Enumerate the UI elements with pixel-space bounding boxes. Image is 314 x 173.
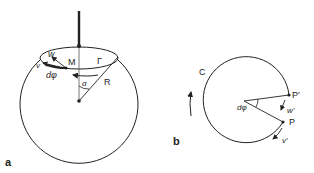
- w-prime-vector: [281, 100, 285, 110]
- figure-b-circle: C P' P w' v' dφ b: [173, 57, 300, 147]
- circle-C: [203, 57, 289, 143]
- top-dot: [77, 44, 81, 48]
- diagram-canvas: w v M dφ Γ α R a C P' P w' v' dφ b: [0, 0, 314, 173]
- radius-to-P-prime: [244, 95, 289, 101]
- panel-label-a: a: [5, 156, 12, 168]
- label-w: w: [48, 49, 55, 59]
- dphi-angle-arc: [256, 99, 258, 107]
- label-v: v: [36, 61, 41, 70]
- rotation-arrow: [73, 75, 98, 76]
- point-P-prime: [287, 93, 290, 96]
- label-P-prime: P': [292, 90, 300, 100]
- label-gamma: Γ: [97, 56, 102, 66]
- label-R: R: [104, 77, 111, 87]
- figure-a-sphere: w v M dφ Γ α R a: [0, 11, 160, 173]
- panel-label-b: b: [173, 135, 180, 147]
- label-dphi-b: dφ: [237, 103, 247, 112]
- label-v-prime: v': [282, 136, 288, 145]
- radius-to-P: [244, 101, 283, 122]
- label-dphi: dφ: [46, 70, 57, 80]
- point-P: [281, 120, 284, 123]
- label-alpha: α: [82, 79, 87, 88]
- label-w-prime: w': [287, 106, 295, 115]
- label-P: P: [289, 117, 295, 127]
- label-M: M: [68, 57, 76, 67]
- rotation-arrow-b: [190, 92, 191, 116]
- label-C: C: [199, 67, 206, 77]
